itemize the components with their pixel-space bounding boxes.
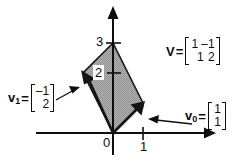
vector-cell: 1 [213, 116, 221, 129]
vector-v0-label: v0 = 1 1 [185, 102, 226, 130]
y-tick-label-3: 3 [96, 35, 103, 48]
matrix-cell: 1 [196, 51, 204, 64]
bracket-right [222, 102, 226, 130]
vector-cell: 2 [41, 98, 49, 111]
matrix-row: 1 2 [190, 51, 214, 64]
origin-label: 0 [103, 136, 110, 149]
figure-canvas [0, 0, 240, 165]
vector-v0-rows: 1 1 [212, 102, 222, 130]
matrix-V-bracket: 1 –1 1 2 [185, 37, 219, 65]
v1-leader-line [56, 90, 74, 100]
x-tick-label-1: 1 [140, 140, 147, 153]
y-tick-label-2: 2 [93, 65, 104, 80]
vector-v1-bracket: –1 2 [31, 84, 54, 112]
matrix-V-expression: V = 1 –1 1 2 [166, 37, 220, 65]
vector-v0-name: v0 [185, 108, 197, 124]
vector-v1-label: v1 = –1 2 [8, 84, 54, 112]
vector-v1-equals: = [21, 91, 29, 106]
vector-v1-rows: –1 2 [35, 84, 50, 112]
bracket-right [216, 37, 220, 65]
vector-row: 1 [213, 116, 221, 129]
matrix-V-equals: = [176, 44, 184, 59]
vector-v1-name: v1 [8, 90, 20, 106]
vector-row: 2 [36, 98, 49, 111]
vector-v0-bracket: 1 1 [208, 102, 226, 130]
matrix-V-name: V [166, 44, 175, 59]
y-axis-arrowhead [108, 6, 119, 19]
matrix-cell: 2 [207, 51, 215, 64]
vector-parallelogram-figure: 0 1 2 3 V = 1 –1 1 2 v1 = [0, 0, 240, 165]
bracket-right [50, 84, 54, 112]
v0-leader-arrowhead [148, 115, 159, 124]
matrix-V-rows: 1 –1 1 2 [189, 37, 215, 65]
vector-v0-equals: = [198, 109, 206, 124]
